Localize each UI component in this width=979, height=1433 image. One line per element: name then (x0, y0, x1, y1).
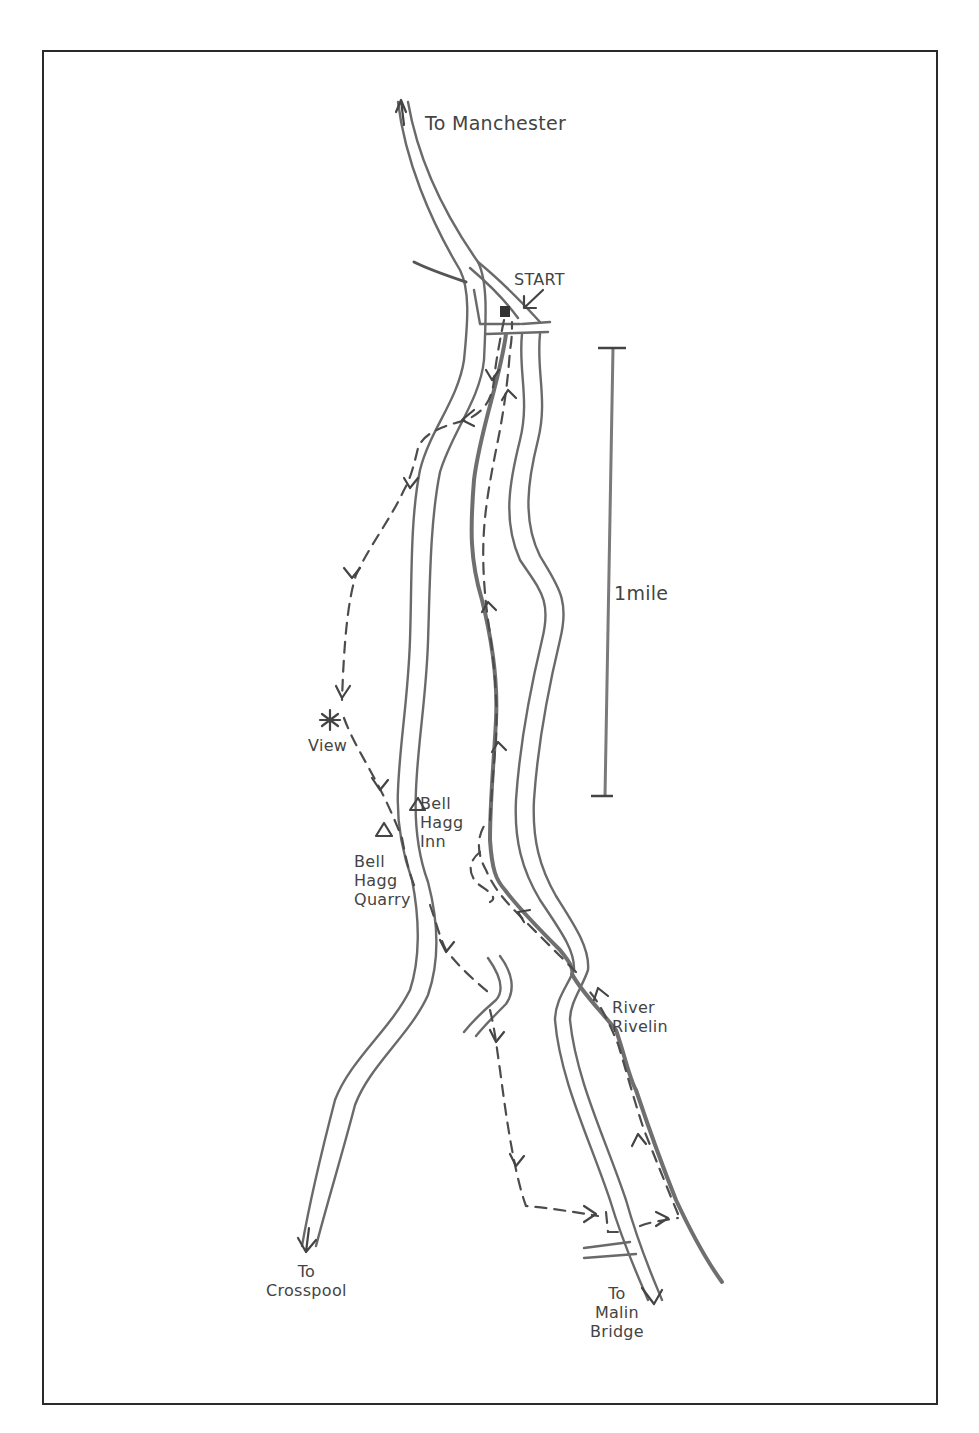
route-arrow-icon (632, 1134, 646, 1146)
label-to-malin-bridge: To Malin Bridge (590, 1284, 644, 1341)
label-view: View (308, 736, 347, 755)
route-arrow-icon (584, 1206, 596, 1222)
route-arrow-icon (656, 1212, 668, 1226)
route-arrow-icon (490, 1030, 504, 1042)
route-arrow-icon (594, 988, 608, 1000)
label-river-rivelin: River Rivelin (612, 998, 668, 1036)
main-road-west (298, 100, 486, 1252)
viewpoint-icon (320, 710, 340, 730)
route-arrow-icon (510, 1154, 524, 1166)
scale-bar (591, 348, 626, 796)
route-arrow-icon (440, 940, 454, 952)
river-rivelin (472, 334, 722, 1282)
route-arrow-icon (372, 778, 388, 790)
label-bell-hagg-quarry: Bell Hagg Quarry (354, 852, 411, 909)
valley-road (509, 334, 662, 1304)
walk-route (336, 320, 678, 1232)
label-scale-1mile: 1mile (614, 582, 668, 604)
label-to-crosspool: To Crosspool (266, 1262, 347, 1300)
label-start: START (514, 270, 565, 289)
label-to-manchester: To Manchester (425, 112, 566, 134)
label-bell-hagg-inn: Bell Hagg Inn (420, 794, 463, 851)
quarry-triangle-icon (376, 823, 392, 836)
route-map (0, 0, 979, 1433)
route-arrow-icon (502, 390, 516, 400)
footbridge-road (464, 956, 512, 1036)
arrow-to-crosspool-icon (298, 1228, 316, 1252)
